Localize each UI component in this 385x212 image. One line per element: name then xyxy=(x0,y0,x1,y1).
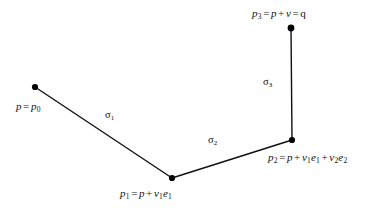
figure-canvas: p=p0 p1=p+v1e1 p2=p+v1e1+v2e2 p3=p+v=q σ… xyxy=(0,0,385,212)
segment-label-sigma1: σ1 xyxy=(105,110,114,122)
vertex-p2 xyxy=(289,137,295,143)
vertex-p1 xyxy=(169,175,175,181)
vertex-label-p2: p2=p+v1e1+v2e2 xyxy=(268,152,347,165)
vertex-label-p0: p=p0 xyxy=(16,101,41,114)
segment-label-sigma2: σ2 xyxy=(208,135,217,147)
vertex-p3 xyxy=(288,25,295,32)
segment-sigma3 xyxy=(291,28,292,140)
segment-label-sigma3: σ3 xyxy=(263,77,272,89)
segment-sigma1 xyxy=(35,87,172,178)
vertex-label-p3: p3=p+v=q xyxy=(252,8,306,21)
vertex-p0 xyxy=(32,84,38,90)
vertex-label-p1: p1=p+v1e1 xyxy=(120,188,172,201)
polyline-diagram xyxy=(0,0,385,212)
